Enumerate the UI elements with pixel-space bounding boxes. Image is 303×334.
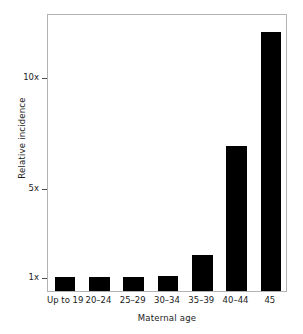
bar-series (48, 15, 286, 291)
bar (158, 276, 179, 291)
x-axis-tick-labels: Up to 1920–2425–2930–3435–3940–4445 (47, 295, 287, 309)
bar (89, 277, 110, 291)
bar-chart-figure: Relative incidence 1x5x10x Up to 1920–24… (0, 0, 303, 334)
x-tick-label: 45 (253, 295, 287, 306)
x-tick-label: Up to 19 (47, 295, 81, 306)
bar (55, 277, 76, 291)
bar (261, 32, 282, 291)
bar (226, 146, 247, 291)
y-tick-label: 5x (5, 184, 39, 193)
x-tick-label: 20–24 (81, 295, 115, 306)
y-axis-ticks: 1x5x10x (0, 0, 47, 334)
y-tick-label: 1x (5, 273, 39, 282)
x-tick-label: 40–44 (218, 295, 252, 306)
x-tick-label: 30–34 (150, 295, 184, 306)
plot-area (47, 14, 287, 292)
x-axis-title: Maternal age (47, 313, 287, 323)
x-tick-label: 35–39 (184, 295, 218, 306)
bar (123, 277, 144, 291)
y-tick-label: 10x (5, 73, 39, 82)
x-tick-label: 25–29 (116, 295, 150, 306)
bar (192, 255, 213, 291)
